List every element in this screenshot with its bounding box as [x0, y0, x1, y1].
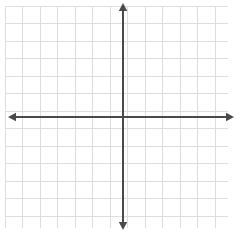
graph-svg — [0, 0, 241, 235]
coordinate-plane-figure — [0, 0, 241, 235]
